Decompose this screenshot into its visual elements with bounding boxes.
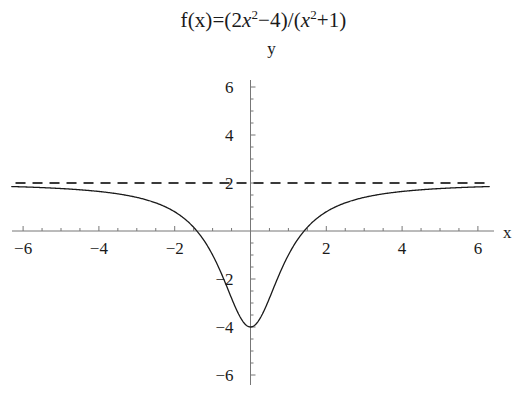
x-tick-label: −6 [14, 240, 32, 257]
y-tick-label: −4 [215, 319, 233, 336]
x-tick-label: 6 [474, 240, 483, 257]
y-tick-label: 4 [225, 127, 234, 144]
y-tick-label: 2 [225, 175, 234, 192]
x-tick-label: −4 [90, 240, 108, 257]
y-tick-label: −6 [215, 367, 233, 384]
x-tick-label: 4 [398, 240, 407, 257]
x-tick-label: −2 [166, 240, 184, 257]
y-tick-label: −2 [215, 271, 233, 288]
x-tick-label: 2 [322, 240, 331, 257]
plot-area [0, 0, 527, 393]
figure-plot-fx: f(x)=(2x2−4)/(x2+1) y x −6−4−2246642−2−4… [0, 0, 527, 393]
y-tick-label: 6 [225, 79, 234, 96]
